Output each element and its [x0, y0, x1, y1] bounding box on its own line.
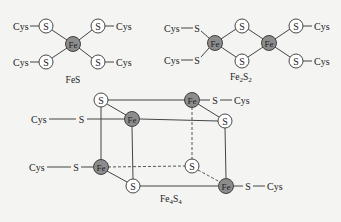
- svg-text:S: S: [95, 57, 101, 68]
- fe2s2-cluster: Cys Cys S S Cys Cys S S S S Fe Fe Fe: [164, 19, 330, 84]
- svg-text:S: S: [239, 21, 245, 32]
- sulfur-label: S: [79, 114, 85, 125]
- iron-atom: Fe: [262, 36, 277, 51]
- svg-text:S: S: [98, 95, 104, 106]
- cys-label: Cys: [13, 57, 29, 68]
- svg-text:S: S: [130, 181, 136, 192]
- sulfur-atom: S: [91, 55, 105, 69]
- fe4s4-caption: Fe4S4: [160, 194, 182, 206]
- sulfur-atom: S: [235, 19, 249, 33]
- cys-label: Cys: [267, 181, 283, 192]
- sulfur-label: S: [194, 23, 200, 34]
- sulfur-atom: S: [235, 54, 249, 68]
- sulfur-atom: S: [91, 19, 105, 33]
- svg-text:S: S: [95, 21, 101, 32]
- iron-atom: Fe: [208, 36, 223, 51]
- cys-label: Cys: [314, 21, 330, 32]
- sulfur-atom: S: [94, 93, 108, 107]
- cys-label: Cys: [164, 23, 180, 34]
- iron-atom: Fe: [219, 179, 234, 194]
- fe4s4-cluster: Cys S Cys S S Cys S Cys S Fe Fe S Fe: [29, 93, 283, 207]
- cys-label: Cys: [116, 21, 132, 32]
- svg-text:Fe: Fe: [188, 96, 197, 106]
- sulfur-atom: S: [218, 114, 232, 128]
- iron-atom: Fe: [66, 37, 81, 52]
- svg-text:Fe: Fe: [128, 115, 137, 125]
- sulfur-label: S: [73, 162, 79, 173]
- sulfur-atom: S: [289, 54, 303, 68]
- svg-text:Fe: Fe: [265, 39, 274, 49]
- svg-text:Fe: Fe: [222, 182, 231, 192]
- svg-text:S: S: [293, 21, 299, 32]
- svg-text:S: S: [189, 161, 195, 172]
- iron-atom: Fe: [94, 160, 109, 175]
- cys-label: Cys: [29, 162, 45, 173]
- sulfur-atom: S: [39, 55, 53, 69]
- svg-text:S: S: [293, 56, 299, 67]
- fes-caption: FeS: [66, 75, 81, 85]
- cys-label: Cys: [234, 95, 250, 106]
- sulfur-atom: S: [39, 19, 53, 33]
- svg-text:Fe: Fe: [69, 40, 78, 50]
- cys-label: Cys: [13, 21, 29, 32]
- svg-text:S: S: [239, 56, 245, 67]
- svg-text:Fe: Fe: [211, 39, 220, 49]
- fe2s2-caption: Fe2S2: [230, 72, 252, 84]
- sulfur-label: S: [212, 95, 218, 106]
- svg-text:S: S: [43, 57, 49, 68]
- sulfur-atom: S: [126, 179, 140, 193]
- iron-atom: Fe: [185, 93, 200, 108]
- iron-sulfur-clusters-diagram: Cys Cys Cys Cys S S S S Fe FeS: [0, 0, 341, 222]
- svg-text:Fe: Fe: [97, 163, 106, 173]
- iron-atom: Fe: [125, 112, 140, 127]
- cys-label: Cys: [314, 56, 330, 67]
- svg-text:S: S: [43, 21, 49, 32]
- sulfur-atom: S: [185, 159, 199, 173]
- cys-label: Cys: [116, 57, 132, 68]
- fes-cluster: Cys Cys Cys Cys S S S S Fe FeS: [13, 19, 132, 85]
- cys-label: Cys: [164, 55, 180, 66]
- sulfur-atom: S: [289, 19, 303, 33]
- svg-text:S: S: [222, 116, 228, 127]
- sulfur-label: S: [194, 55, 200, 66]
- cys-label: Cys: [31, 114, 47, 125]
- sulfur-label: S: [245, 181, 251, 192]
